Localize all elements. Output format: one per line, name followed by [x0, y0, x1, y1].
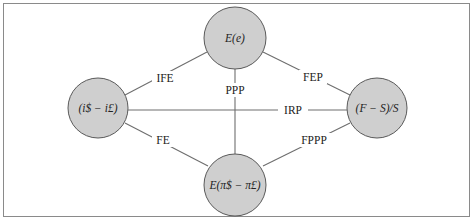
- svg-text:IRP: IRP: [284, 104, 302, 116]
- svg-text:FE: FE: [156, 134, 169, 146]
- node-expected-exchange-change: E(e): [204, 7, 266, 69]
- node-expected-inflation-differential: E(π$ − π£): [204, 154, 266, 216]
- edge-label-fe: FE: [152, 133, 174, 147]
- svg-text:PPP: PPP: [225, 84, 244, 96]
- edge-label-fppp: FPPP: [296, 133, 332, 147]
- parity-diagram: IFE FEP PPP IRP FE FPPP (i$ − i£) E(e) (…: [0, 0, 475, 223]
- edge-label-ife: IFE: [152, 71, 178, 85]
- edge-label-fep: FEP: [299, 70, 327, 84]
- svg-text:(i$ − i£): (i$ − i£): [78, 102, 117, 115]
- svg-text:E(e): E(e): [224, 32, 245, 45]
- svg-text:IFE: IFE: [156, 72, 173, 84]
- svg-text:FPPP: FPPP: [301, 134, 327, 146]
- svg-text:FEP: FEP: [303, 71, 323, 83]
- node-forward-premium: (F − S)/S: [347, 78, 407, 138]
- svg-text:(F − S)/S: (F − S)/S: [356, 102, 399, 115]
- edge-label-ppp: PPP: [221, 83, 249, 97]
- svg-text:E(π$ − π£): E(π$ − π£): [208, 179, 260, 192]
- node-interest-differential: (i$ − i£): [68, 78, 128, 138]
- edge-label-irp: IRP: [278, 103, 308, 117]
